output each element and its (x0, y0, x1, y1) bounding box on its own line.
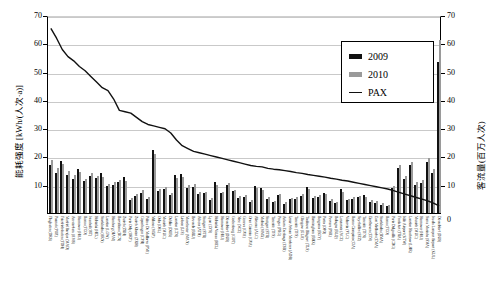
left-tick-label: 40 (20, 97, 42, 105)
tick-mark (43, 157, 47, 158)
category-label: Zurich (ZRH) (122, 216, 126, 236)
tick-mark (441, 73, 445, 74)
category-label: London Heathrow (LHR) (407, 216, 411, 253)
left-tick-label: 10 (20, 182, 42, 190)
left-tick-label: 50 (20, 69, 42, 77)
left-tick-label: 70 (20, 12, 42, 20)
category-label: Amsterdam (AMS) (71, 216, 75, 244)
tick-mark (441, 16, 445, 17)
category-label: Barcelona (BCN) (116, 216, 120, 241)
left-tick-label: 30 (20, 125, 42, 133)
legend-swatch-icon (349, 72, 362, 77)
tick-mark (43, 186, 47, 187)
tick-mark (441, 157, 445, 158)
category-label: Friedrichshafen (FDH) (59, 216, 63, 249)
category-label: Kuala Lumpur Airport (KUL) (430, 216, 434, 259)
category-label: Valencia (VLC) (345, 216, 349, 239)
category-label: Copenhagen (CPH) (139, 216, 143, 244)
legend-item-2010: 2010 (349, 65, 433, 83)
category-label: Athens (ATH) (196, 216, 200, 236)
category-label: Oslo (OSL) (156, 216, 160, 233)
category-label: Düsseldorf (DUS) (436, 216, 440, 242)
right-tick-label: 10 (447, 182, 469, 190)
category-label: Lisbon (LIS) (179, 216, 183, 235)
legend-item-pax: PAX (349, 83, 433, 101)
chart-legend: 2009 2010 PAX (341, 41, 434, 103)
right-tick-label: 30 (447, 125, 469, 133)
tick-mark (43, 101, 47, 102)
left-tick-label: 20 (20, 153, 42, 161)
legend-label: PAX (368, 87, 387, 98)
category-label: Paris Orly (ORY) (128, 216, 132, 241)
category-label: Kiln Airport (KTW) (402, 216, 406, 245)
category-label: Hannover (HAJ) (419, 216, 423, 240)
category-label: Roma (FCO) (385, 216, 389, 235)
category-label: Stuttgart (STR) (265, 216, 269, 238)
tick-mark (441, 129, 445, 130)
category-label: Munich (MUC) (162, 216, 166, 239)
category-label: Ankara Esenboga (ESB) (282, 216, 286, 251)
category-label: London (LTN) (173, 216, 177, 237)
tick-mark (43, 16, 47, 17)
chart-screenshot: 能耗强度 [kWh/(人次·a)] 客流量(百万人次) 102030405060… (0, 0, 488, 300)
category-label: Milano (MXP) (150, 216, 154, 237)
tick-mark (43, 73, 47, 74)
category-label: London (LGW) (105, 216, 109, 239)
right-tick-label: 50 (447, 69, 469, 77)
category-label: Stockholm (ARN) (99, 216, 103, 242)
category-label: Oran Cointrin (GVA) (248, 216, 252, 247)
category-label: Brussels (BRU) (190, 216, 194, 239)
category-label: Poznań (POZ) (53, 216, 57, 237)
category-label: Roma (FCO) (82, 216, 86, 235)
category-label: Helsinki (HEL) (93, 216, 97, 238)
category-label: Porto (OPO) (322, 216, 326, 234)
category-label: Tenerife (TFN) (362, 216, 366, 238)
category-label: Prague (PRG) (276, 216, 280, 236)
right-tick-label: 60 (447, 40, 469, 48)
category-label: Nice (NCE) (236, 216, 240, 233)
category-label: Roma Ciampino (CIA) (350, 216, 354, 249)
category-label: Alicante (ALC) (253, 216, 257, 239)
right-tick-label: 20 (447, 153, 469, 161)
category-label: Malmö (MMX) (259, 216, 263, 239)
category-label: Hannover (HAJ) (76, 216, 80, 240)
category-label: İzmir Adnan Menderes (ADB) (287, 216, 291, 260)
category-label: Hamburg (HAM) (110, 216, 114, 241)
category-label: Helsinki Vantaa (HEL) (213, 216, 217, 249)
tick-mark (43, 44, 47, 45)
category-label: Seychelles (SEZ) (356, 216, 360, 241)
legend-item-2009: 2009 (349, 47, 433, 65)
legend-label: 2010 (368, 69, 388, 80)
category-label: Palma De Mallorca (PMI) (145, 216, 149, 254)
category-label: Lyon (LYS) (208, 216, 212, 233)
category-label: Paris Delgaulle (CDG) (390, 216, 394, 249)
tick-mark (441, 44, 445, 45)
category-label: Dublin (DUB) (168, 216, 172, 237)
category-label: Geneva (GVA) (242, 216, 246, 238)
tick-mark (441, 101, 445, 102)
category-label: Stuttgart (STR) (202, 216, 206, 238)
category-label: Stockholm (BMA) (379, 216, 383, 243)
left-tick-label: 60 (20, 40, 42, 48)
category-label: Flughafen (DRS) (48, 216, 52, 241)
category-label: Bologna (BLQ) (333, 216, 337, 239)
category-label: East Midlands (EMA) (373, 216, 377, 248)
right-tick-label: 40 (447, 97, 469, 105)
legend-swatch-icon (349, 54, 362, 59)
category-axis-labels: Flughafen (DRS)Poznań (POZ)Friedrichshaf… (47, 216, 441, 300)
category-label: Gothenburg (GOT) (230, 216, 234, 244)
tick-mark (43, 129, 47, 130)
right-axis-title: 客流量(百万人次) (474, 121, 486, 190)
category-label: Istanbul (IST) (88, 216, 92, 236)
legend-label: 2009 (368, 51, 388, 62)
category-label: Birmingham (BHX) (310, 216, 314, 245)
zero-tick-label: 0 (447, 215, 451, 224)
category-label: Madrid Barajas (MAD) (65, 216, 69, 250)
category-label: Hannover (HAJ) (219, 216, 223, 240)
category-label: Santa Marinha (SMA) (425, 216, 429, 248)
category-label: Munich (MUC) (413, 216, 417, 239)
legend-line-icon (349, 92, 362, 93)
category-label: Pescara (PSR) (327, 216, 331, 237)
tick-mark (441, 186, 445, 187)
category-label: Lanzarote (ACE) (339, 216, 343, 241)
